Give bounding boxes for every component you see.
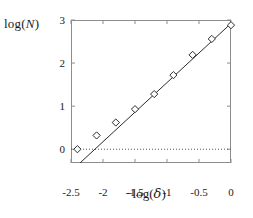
data-point-marker <box>112 119 119 126</box>
data-series-box-count <box>74 22 235 153</box>
y-axis-label: log(N) <box>4 16 39 32</box>
plot-canvas <box>71 20 231 163</box>
data-point-marker <box>189 51 196 58</box>
y-tick-label: 2 <box>41 57 65 69</box>
data-point-marker <box>93 132 100 139</box>
y-tick-label: 3 <box>41 14 65 26</box>
plot-area: 0123 -2.5-2-1.5-1-0.50 <box>71 20 231 163</box>
x-axis-label: −log(δ) <box>0 186 253 202</box>
x-axis-label-symbol: δ <box>154 186 162 201</box>
data-point-marker <box>170 72 177 79</box>
y-axis-label-symbol: N <box>26 16 35 31</box>
data-point-marker <box>74 146 81 153</box>
y-tick-label: 1 <box>41 100 65 112</box>
y-tick-label: 0 <box>41 143 65 155</box>
data-point-marker <box>227 22 234 29</box>
figure: log(N) 0123 -2.5-2-1.5-1-0.50 −log(δ) <box>0 0 253 218</box>
data-point-marker <box>131 106 138 113</box>
data-point-marker <box>208 35 215 42</box>
